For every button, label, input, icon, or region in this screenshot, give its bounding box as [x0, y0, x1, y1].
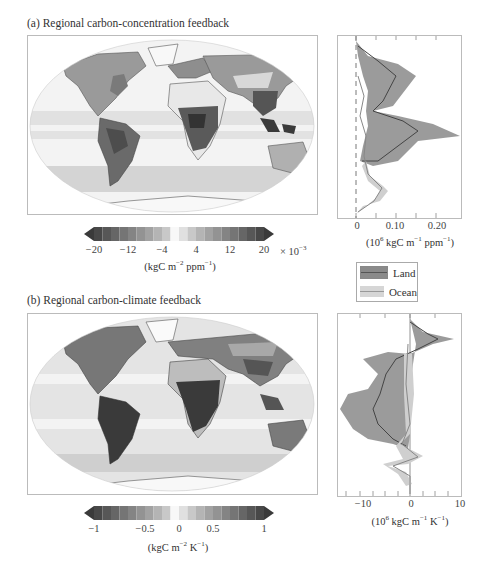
- colorbar-a-unit: (kgC m−2 ppm−1): [144, 259, 216, 272]
- profile-b-plot: [338, 314, 461, 496]
- colorbar-a-tick: 12: [225, 244, 236, 255]
- colorbar-b-tick: −1: [88, 523, 99, 534]
- profile-b-xtick: 10: [455, 498, 466, 509]
- colorbar-a-tick: −12: [120, 244, 136, 255]
- colorbar-a-tick: −4: [156, 244, 167, 255]
- colorbar-b-tick: −0.5: [135, 523, 154, 534]
- profile-b-xtick: −10: [355, 498, 371, 509]
- profile-a-plot: [338, 36, 461, 218]
- colorbar-a-tick: 20: [259, 244, 270, 255]
- profile-a-xtick: 0: [354, 220, 359, 231]
- colorbar-a: [84, 226, 274, 242]
- world-map-b: [28, 314, 317, 494]
- colorbar-a-tick: −20: [86, 244, 102, 255]
- profile-b-xlabel: (106 kgC m−1 K−1): [371, 514, 448, 527]
- profile-b: [337, 313, 462, 497]
- colorbar-b-tick: 1: [261, 523, 266, 534]
- panel-a-title: (a) Regional carbon-concentration feedba…: [27, 17, 229, 29]
- ocean-swatch-icon: [360, 286, 384, 297]
- profile-a-xlabel: (106 kgC m−1 ppm−1): [366, 235, 454, 248]
- land-swatch-icon: [360, 266, 388, 279]
- map-a: [27, 35, 318, 215]
- colorbar-b: [84, 505, 274, 521]
- colorbar-a-multiplier: × 10−3: [280, 244, 307, 257]
- colorbar-a-tick: 4: [193, 244, 198, 255]
- colorbar-b-tick: 0: [176, 523, 181, 534]
- map-b: [27, 313, 318, 495]
- world-map-a: [28, 36, 317, 214]
- legend: Land Ocean: [356, 262, 418, 302]
- panel-b-title: (b) Regional carbon-climate feedback: [27, 294, 201, 306]
- profile-a-xtick: 0.10: [386, 220, 404, 231]
- profile-a-xtick: 0.20: [428, 220, 446, 231]
- profile-a: [337, 35, 462, 219]
- colorbar-b-unit: (kgC m−2 K−1): [148, 540, 208, 553]
- profile-b-xtick: 0: [408, 498, 413, 509]
- legend-item-ocean: Ocean: [357, 282, 417, 301]
- legend-item-land: Land: [357, 263, 417, 282]
- colorbar-b-tick: 0.5: [206, 523, 219, 534]
